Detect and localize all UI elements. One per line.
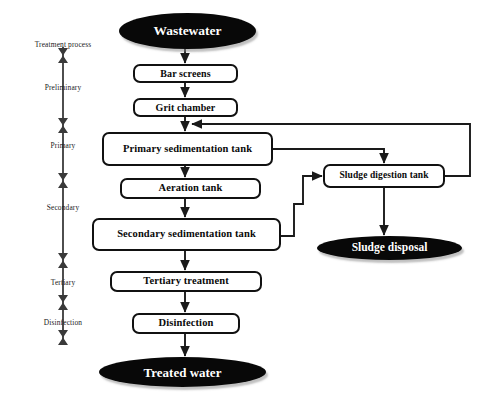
- node-tertiary-treatment-label: Tertiary treatment: [143, 276, 228, 287]
- node-aeration-tank-label: Aeration tank: [158, 183, 222, 194]
- node-disinfection[interactable]: Disinfection: [132, 313, 240, 334]
- stage-marker-5: [58, 295, 68, 310]
- stage-axis-heading: Treatment process: [35, 40, 92, 49]
- node-sludge-digestion-tank[interactable]: Sludge digestion tank: [323, 164, 445, 188]
- node-tertiary-treatment[interactable]: Tertiary treatment: [110, 271, 262, 292]
- node-treated-water-label: Treated water: [144, 366, 222, 379]
- stage-marker-6: [58, 330, 68, 345]
- stage-label-primary: Primary: [51, 141, 76, 150]
- stage-label-secondary: Secondary: [47, 203, 80, 212]
- edge-secondary-sludge-to-digestion-tank: [280, 176, 322, 236]
- edge-primary-sludge-to-digestion-tank: [272, 149, 384, 163]
- node-sludge-disposal[interactable]: Sludge disposal: [317, 236, 462, 260]
- node-sludge-disposal-label: Sludge disposal: [352, 242, 428, 254]
- stage-label-tertiary: Tertiary: [51, 278, 75, 287]
- stage-label-disinfection: Disinfection: [44, 318, 82, 327]
- node-primary-sedimentation-tank-label: Primary sedimentation tank: [123, 144, 252, 155]
- node-bar-screens-label: Bar screens: [160, 69, 210, 79]
- node-bar-screens[interactable]: Bar screens: [133, 64, 238, 83]
- stage-marker-1: [58, 48, 68, 63]
- node-primary-sedimentation-tank[interactable]: Primary sedimentation tank: [102, 132, 273, 166]
- node-aeration-tank[interactable]: Aeration tank: [120, 178, 261, 199]
- node-wastewater-label: Wastewater: [153, 24, 221, 38]
- node-sludge-digestion-tank-label: Sludge digestion tank: [339, 171, 428, 181]
- node-treated-water[interactable]: Treated water: [99, 357, 266, 387]
- node-wastewater[interactable]: Wastewater: [119, 13, 256, 49]
- node-disinfection-label: Disinfection: [159, 318, 214, 329]
- stage-marker-3: [58, 173, 68, 188]
- node-grit-chamber-label: Grit chamber: [156, 103, 216, 113]
- node-secondary-sedimentation-tank-label: Secondary sedimentation tank: [117, 229, 256, 240]
- stage-marker-2: [58, 118, 68, 133]
- flowchart-diagram: Treatment process Preliminary Primary Se…: [0, 0, 487, 406]
- stage-label-preliminary: Preliminary: [45, 83, 82, 92]
- stage-axis-markers: [58, 48, 68, 345]
- stage-marker-4: [58, 253, 68, 268]
- node-secondary-sedimentation-tank[interactable]: Secondary sedimentation tank: [92, 218, 281, 251]
- node-grit-chamber[interactable]: Grit chamber: [133, 98, 238, 117]
